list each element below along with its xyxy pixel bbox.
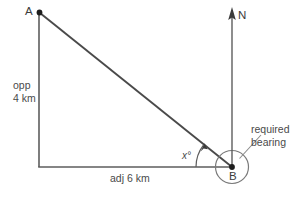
label-vertex-b: B <box>229 170 237 182</box>
label-opposite-side: opp 4 km <box>13 79 36 104</box>
label-vertex-a: A <box>25 5 33 17</box>
label-north: N <box>238 9 246 21</box>
label-angle-x: x° <box>182 150 191 162</box>
label-adjacent-side: adj 6 km <box>110 172 150 184</box>
vertex-dot-a <box>37 10 43 16</box>
segment-hypotenuse <box>40 13 232 167</box>
label-required-bearing: required bearing <box>251 123 290 148</box>
diagram-canvas <box>0 0 307 197</box>
bearing-diagram: A B N opp 4 km adj 6 km x° required bear… <box>0 0 307 197</box>
